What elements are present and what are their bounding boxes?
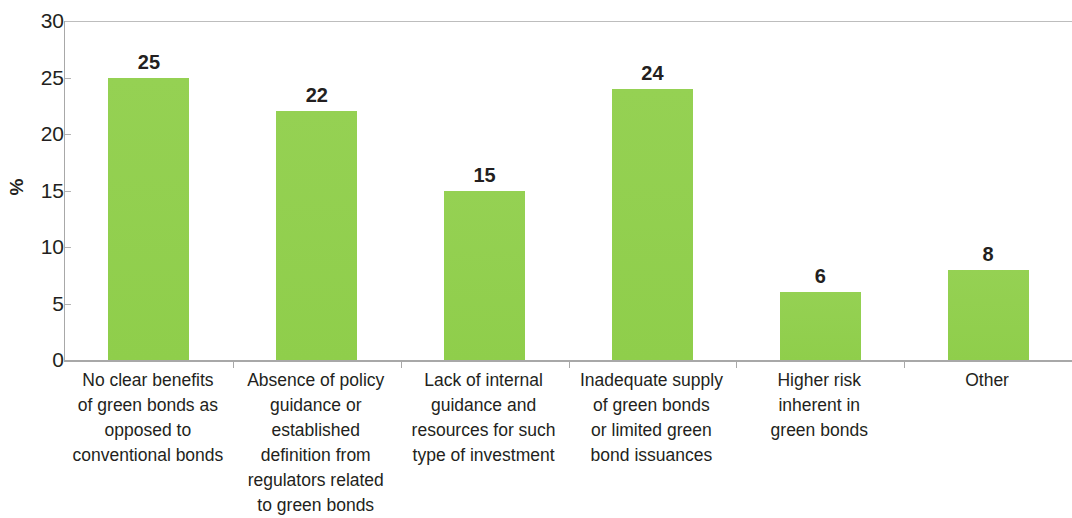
x-category-label: Lack of internal guidance and resources … (400, 368, 568, 468)
x-category-label: Inadequate supply of green bonds or limi… (568, 368, 736, 468)
bar (612, 89, 693, 360)
bar (948, 270, 1029, 360)
y-axis-ticks: 302520151050 (0, 0, 64, 497)
bar-value-label: 15 (435, 165, 535, 185)
y-tick-label: 10 (18, 236, 64, 257)
bar (780, 292, 861, 360)
y-tick-label: 25 (18, 67, 64, 88)
bar (276, 111, 357, 360)
x-axis-labels: No clear benefits of green bonds as oppo… (64, 368, 1071, 497)
x-category-label: No clear benefits of green bonds as oppo… (64, 368, 232, 468)
y-tick-label: 15 (18, 180, 64, 201)
top-gridline (65, 21, 1072, 22)
x-category-label: Higher risk inherent in green bonds (735, 368, 903, 443)
bar-value-label: 6 (770, 266, 870, 286)
x-axis-baseline (65, 360, 1072, 362)
y-tick-label: 0 (18, 349, 64, 370)
x-category-label: Other (903, 368, 1071, 393)
bar-value-label: 25 (99, 52, 199, 72)
bar-value-label: 8 (938, 244, 1038, 264)
y-tick-label: 5 (18, 293, 64, 314)
bar-value-label: 22 (267, 85, 367, 105)
bar (108, 78, 189, 361)
y-tick-label: 30 (18, 10, 64, 31)
plot-area: 2522152468 (64, 21, 1072, 362)
x-category-label: Absence of policy guidance or establishe… (232, 368, 400, 518)
y-tick-label: 20 (18, 123, 64, 144)
bar-value-label: 24 (602, 63, 702, 83)
bar (444, 191, 525, 361)
